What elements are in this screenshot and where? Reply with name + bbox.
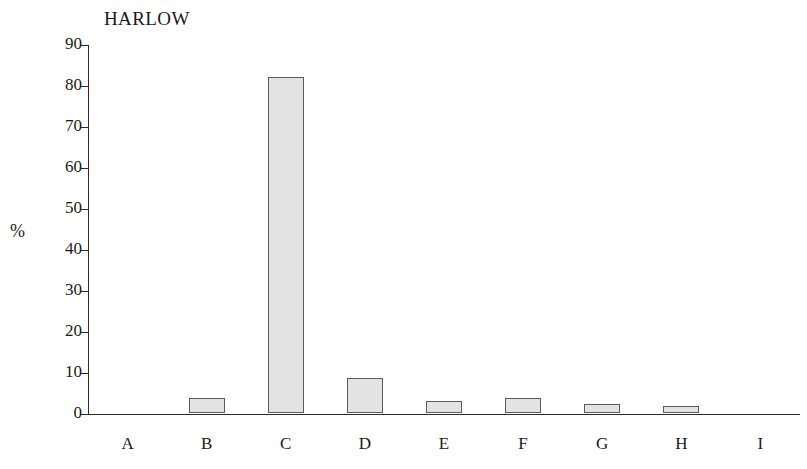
- y-tick-mark: [81, 250, 88, 251]
- y-tick-mark: [81, 332, 88, 333]
- bar-h: [663, 406, 699, 413]
- y-tick-label: 20: [65, 321, 82, 341]
- bar-g: [584, 404, 620, 413]
- plot-area: 0102030405060708090 ABCDEFGHI: [88, 45, 800, 414]
- bar-d: [347, 378, 383, 413]
- y-tick-mark: [81, 127, 88, 128]
- y-tick-label: 60: [65, 157, 82, 177]
- x-tick-label-f: F: [484, 434, 563, 454]
- bar-c: [268, 77, 304, 413]
- bar-b: [189, 398, 225, 413]
- x-tick-label-i: I: [721, 434, 800, 454]
- y-tick-label: 0: [74, 403, 83, 423]
- x-tick-label-d: D: [325, 434, 404, 454]
- y-tick-label: 40: [65, 239, 82, 259]
- bar-f: [505, 398, 541, 413]
- y-tick-mark: [81, 414, 88, 415]
- y-tick-label: 70: [65, 116, 82, 136]
- x-tick-label-e: E: [404, 434, 483, 454]
- y-axis-line: [88, 45, 89, 415]
- chart-title: HARLOW: [104, 8, 190, 30]
- x-tick-label-h: H: [642, 434, 721, 454]
- x-tick-label-c: C: [246, 434, 325, 454]
- x-axis-line: [88, 414, 800, 415]
- y-tick-label: 90: [65, 34, 82, 54]
- y-tick-mark: [81, 373, 88, 374]
- y-tick-mark: [81, 168, 88, 169]
- y-tick-mark: [81, 86, 88, 87]
- y-tick-label: 50: [65, 198, 82, 218]
- x-tick-label-g: G: [563, 434, 642, 454]
- y-tick-label: 10: [65, 362, 82, 382]
- bar-e: [426, 401, 462, 413]
- x-tick-label-a: A: [88, 434, 167, 454]
- bar-chart: HARLOW % 0102030405060708090 ABCDEFGHI: [0, 0, 807, 469]
- y-tick-label: 80: [65, 75, 82, 95]
- y-tick-label: 30: [65, 280, 82, 300]
- x-tick-label-b: B: [167, 434, 246, 454]
- y-tick-mark: [81, 45, 88, 46]
- y-tick-mark: [81, 291, 88, 292]
- y-tick-mark: [81, 209, 88, 210]
- y-axis-label: %: [10, 221, 25, 242]
